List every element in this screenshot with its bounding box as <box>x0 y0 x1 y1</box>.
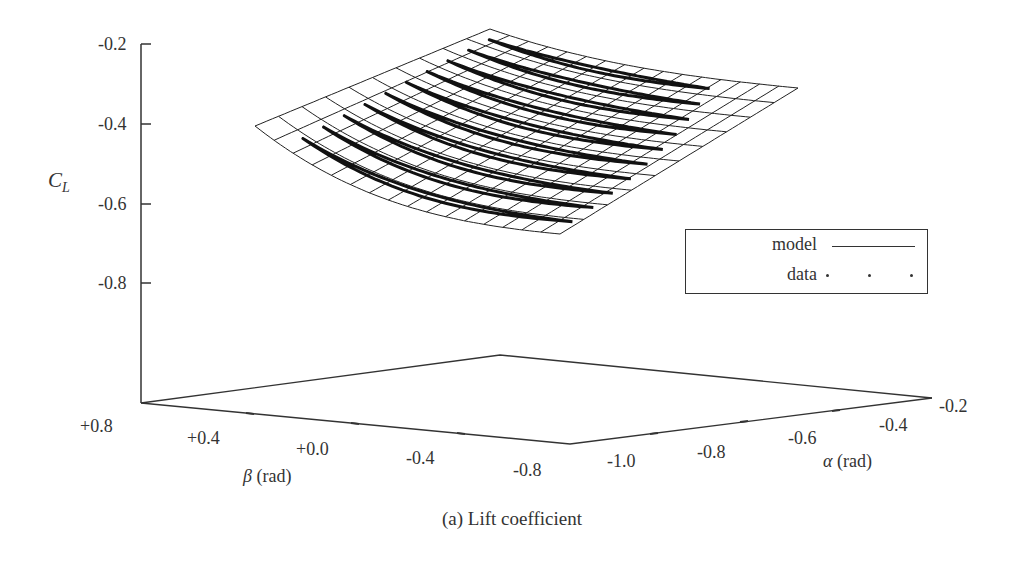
alpha-axis-label: α (rad) <box>823 452 872 470</box>
z-tick-label: -0.4 <box>98 115 127 133</box>
beta-tick-label: +0.8 <box>80 417 113 435</box>
beta-tick-label: +0.0 <box>296 440 329 458</box>
data-loops <box>303 40 710 222</box>
z-tick-label: -0.2 <box>98 35 127 53</box>
alpha-tick-label: -1.0 <box>607 452 636 470</box>
legend-entry-data: data <box>686 264 927 288</box>
z-axis <box>141 44 151 403</box>
z-axis-label-sub: L <box>62 180 70 195</box>
beta-symbol: β <box>243 466 252 486</box>
legend-entry-model: model <box>686 234 927 258</box>
z-tick-label: -0.8 <box>98 274 127 292</box>
alpha-tick-label: -0.2 <box>939 397 968 415</box>
legend-dots-swatch <box>823 274 915 278</box>
z-axis-label-main: C <box>48 168 62 192</box>
z-tick-label: -0.6 <box>98 195 127 213</box>
z-axis-label: CL <box>48 170 70 195</box>
model-surface <box>255 29 798 234</box>
alpha-tick-label: -0.8 <box>697 443 726 461</box>
beta-axis-label: β (rad) <box>243 467 291 485</box>
beta-tick-label: +0.4 <box>187 429 220 447</box>
beta-unit: (rad) <box>252 466 291 486</box>
alpha-tick-label: -0.6 <box>788 429 817 447</box>
legend-line-swatch <box>832 246 915 247</box>
figure-caption: (a) Lift coefficient <box>0 508 1024 530</box>
legend-label-data: data <box>787 264 817 285</box>
beta-tick-label: -0.8 <box>513 461 542 479</box>
beta-tick-label: -0.4 <box>406 449 435 467</box>
legend-label-model: model <box>772 234 817 255</box>
legend: model data <box>685 229 928 294</box>
alpha-unit: (rad) <box>832 451 871 471</box>
alpha-tick-label: -0.4 <box>879 416 908 434</box>
